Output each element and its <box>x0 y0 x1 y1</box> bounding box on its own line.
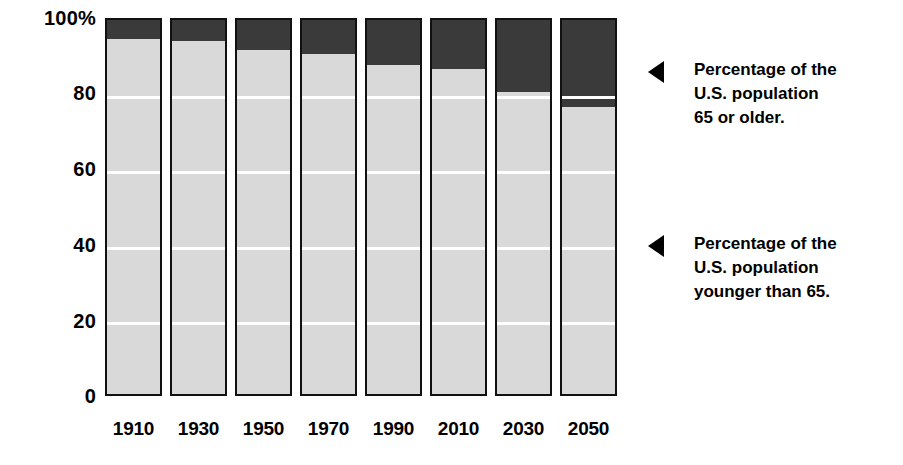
bar-1930 <box>170 18 227 396</box>
y-tick-label-0: 0 <box>0 386 96 406</box>
y-tick-label-100: 100% <box>0 8 96 28</box>
left-triangle-marker-icon <box>648 61 664 83</box>
y-tick-label-40: 40 <box>0 235 96 255</box>
bar-segment-older-1970 <box>302 20 355 54</box>
bar-group: 1910 <box>105 0 162 465</box>
y-tick-label-80: 80 <box>0 83 96 103</box>
bar-2030 <box>495 18 552 396</box>
gridline-40 <box>302 247 355 250</box>
legend-item-younger: Percentage of the U.S. population younge… <box>648 232 898 304</box>
gridline-40 <box>237 247 290 250</box>
bar-2050 <box>560 18 617 396</box>
bar-group: 1990 <box>365 0 422 465</box>
x-tick-label-1950: 1950 <box>235 418 292 440</box>
bar-1950 <box>235 18 292 396</box>
bar-1970 <box>300 18 357 396</box>
gridline-20 <box>302 322 355 325</box>
bar-segment-older-1950 <box>237 20 290 50</box>
gridline-60 <box>562 171 615 174</box>
legend-label-younger: Percentage of the U.S. population younge… <box>694 232 837 304</box>
gridline-20 <box>432 322 485 325</box>
stacked-bar-chart: 100% 80 60 40 20 0 191019301950197019902… <box>0 0 903 465</box>
bar-segment-older-1910 <box>107 20 160 39</box>
bar-group: 1930 <box>170 0 227 465</box>
bar-group: 1970 <box>300 0 357 465</box>
x-tick-label-2050: 2050 <box>560 418 617 440</box>
y-axis: 100% 80 60 40 20 0 <box>0 0 96 465</box>
bar-segment-older-1930 <box>172 20 225 41</box>
gridline-60 <box>497 171 550 174</box>
x-tick-label-1990: 1990 <box>365 418 422 440</box>
bar-segment-older-1990 <box>367 20 420 65</box>
gridline-40 <box>497 247 550 250</box>
gridline-40 <box>432 247 485 250</box>
gridline-40 <box>367 247 420 250</box>
gridline-20 <box>237 322 290 325</box>
gridline-80 <box>367 96 420 99</box>
bar-2010 <box>430 18 487 396</box>
gridline-20 <box>367 322 420 325</box>
bar-group: 2030 <box>495 0 552 465</box>
gridline-80 <box>302 96 355 99</box>
bar-segment-older-2050 <box>562 20 615 107</box>
left-triangle-marker-icon <box>648 235 664 257</box>
x-tick-label-1930: 1930 <box>170 418 227 440</box>
bar-group: 1950 <box>235 0 292 465</box>
gridline-20 <box>497 322 550 325</box>
gridline-80 <box>497 96 550 99</box>
x-tick-label-1970: 1970 <box>300 418 357 440</box>
gridline-20 <box>562 322 615 325</box>
gridline-40 <box>107 247 160 250</box>
bar-group: 2010 <box>430 0 487 465</box>
gridline-60 <box>302 171 355 174</box>
bar-1990 <box>365 18 422 396</box>
bar-segment-older-2010 <box>432 20 485 69</box>
gridline-60 <box>367 171 420 174</box>
gridline-60 <box>432 171 485 174</box>
gridline-40 <box>562 247 615 250</box>
x-tick-label-2030: 2030 <box>495 418 552 440</box>
x-tick-label-1910: 1910 <box>105 418 162 440</box>
gridline-80 <box>562 96 615 99</box>
legend-item-older: Percentage of the U.S. population 65 or … <box>648 58 898 130</box>
bar-segment-older-2030 <box>497 20 550 92</box>
gridline-80 <box>432 96 485 99</box>
gridline-40 <box>172 247 225 250</box>
y-tick-label-60: 60 <box>0 159 96 179</box>
gridline-60 <box>107 171 160 174</box>
gridline-60 <box>237 171 290 174</box>
bar-group: 2050 <box>560 0 617 465</box>
gridline-20 <box>107 322 160 325</box>
gridline-80 <box>107 96 160 99</box>
gridline-80 <box>172 96 225 99</box>
y-tick-label-20: 20 <box>0 311 96 331</box>
bar-1910 <box>105 18 162 396</box>
x-tick-label-2010: 2010 <box>430 418 487 440</box>
gridline-80 <box>237 96 290 99</box>
gridline-60 <box>172 171 225 174</box>
gridline-20 <box>172 322 225 325</box>
plot-area: 19101930195019701990201020302050 <box>105 0 630 465</box>
legend-label-older: Percentage of the U.S. population 65 or … <box>694 58 837 130</box>
